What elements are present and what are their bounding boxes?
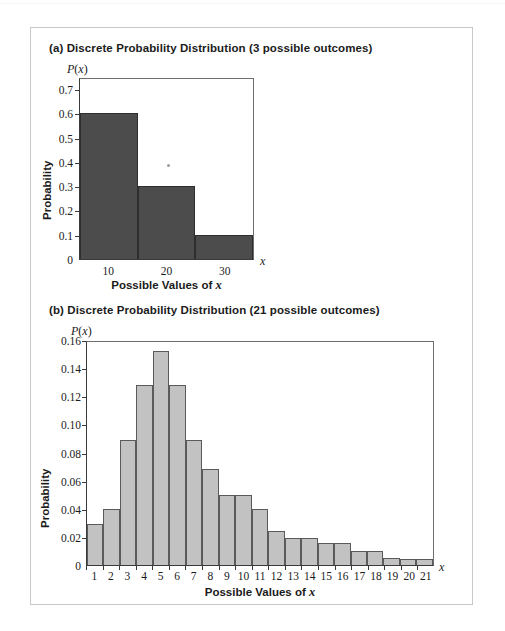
panel-b-y-tick-mark <box>82 397 86 398</box>
panel-b-x-tick-label: 9 <box>224 570 230 582</box>
panel-a-y-axis-symbol: P(x) <box>67 62 88 77</box>
panel-b-plot-area <box>86 341 434 566</box>
panel-a-y-tick-label: 0.3 <box>39 181 73 193</box>
panel-b-bar <box>186 440 202 565</box>
panel-b-y-tick-label: 0.06 <box>35 476 81 488</box>
panel-b-x-tick-label: 7 <box>191 570 197 582</box>
panel-a-x-tick-label: 10 <box>102 265 114 277</box>
panel-b-x-tick-label: 5 <box>158 570 164 582</box>
panel-b-x-tick-label: 18 <box>370 570 382 582</box>
panel-b-x-tick-mark <box>285 566 286 570</box>
panel-b-x-tick-label: 3 <box>125 570 131 582</box>
panel-b-bar <box>87 524 103 565</box>
panel-b-bar <box>235 495 251 565</box>
panel-b-bar <box>120 440 136 565</box>
panel-a-y-tick-mark <box>75 187 79 188</box>
panel-b-bar <box>268 531 284 565</box>
panel-a-x-tick-label: 20 <box>161 265 173 277</box>
scan-speck <box>167 164 170 167</box>
panel-b-x-tick-label: 4 <box>141 570 147 582</box>
panel-b-x-tick-mark <box>351 566 352 570</box>
panel-b-x-tick-label: 1 <box>91 570 97 582</box>
panel-b-y-tick-mark <box>82 510 86 511</box>
panel-a-y-tick-mark <box>75 114 79 115</box>
panel-b-x-tick-label: 6 <box>174 570 180 582</box>
panel-b-x-tick-label: 20 <box>403 570 415 582</box>
panel-b-x-tick-label: 21 <box>420 570 432 582</box>
panel-b-bar <box>202 469 218 565</box>
panel-b-x-tick-label: 10 <box>238 570 250 582</box>
panel-b-bar <box>285 538 301 565</box>
panel-a-y-tick-mark <box>75 90 79 91</box>
panel-b-x-tick-mark <box>401 566 402 570</box>
panel-b-bar <box>334 543 350 566</box>
panel-b-y-tick-label: 0 <box>35 560 81 572</box>
panel-b-x-tick-mark <box>185 566 186 570</box>
panel-b-x-axis-symbol: x <box>439 560 444 575</box>
panel-a-y-tick-label: 0.2 <box>39 205 73 217</box>
panel-b-x-tick-label: 8 <box>207 570 213 582</box>
panel-a-bar <box>138 186 196 259</box>
panel-b-bar <box>219 495 235 565</box>
panel-b-x-axis-label: Possible Values of x <box>86 585 434 600</box>
panel-b-x-tick-mark <box>202 566 203 570</box>
panel-b-bar <box>136 385 152 565</box>
panel-b-y-tick-mark <box>82 341 86 342</box>
panel-a-bar <box>80 113 138 259</box>
panel-b-y-tick-mark <box>82 425 86 426</box>
panel-b-x-axis-label-text: Possible Values of x <box>205 586 315 598</box>
panel-b-y-tick-mark <box>82 482 86 483</box>
panel-b-x-tick-label: 2 <box>108 570 114 582</box>
panel-b-y-tick-mark <box>82 538 86 539</box>
panel-b-x-tick-label: 11 <box>254 570 265 582</box>
panel-b-y-tick-label: 0.08 <box>35 448 81 460</box>
panel-b-y-tick-mark <box>82 454 86 455</box>
panel-b-bar <box>351 551 367 565</box>
panel-b-x-tick-mark <box>219 566 220 570</box>
panel-b-x-tick-label: 12 <box>271 570 283 582</box>
panel-b-bar <box>367 551 383 565</box>
panel-a-x-axis-label-text: Possible Values of x <box>111 279 221 291</box>
panel-b-y-tick-label: 0.10 <box>35 419 81 431</box>
panel-b-x-tick-mark <box>152 566 153 570</box>
figure-frame: (a) Discrete Probability Distribution (3… <box>30 27 473 605</box>
panel-b-bar <box>383 558 399 565</box>
panel-b-x-tick-mark <box>368 566 369 570</box>
panel-b-x-tick-mark <box>318 566 319 570</box>
panel-b-y-tick-label: 0.04 <box>35 504 81 516</box>
panel-a-y-tick-label: 0 <box>39 254 73 266</box>
panel-a-y-tick-label: 0.4 <box>39 157 73 169</box>
panel-b-bar <box>400 559 416 565</box>
panel-b-x-tick-label: 19 <box>387 570 399 582</box>
panel-b-y-tick-mark <box>82 369 86 370</box>
panel-b-x-tick-mark <box>252 566 253 570</box>
panel-b-x-tick-mark <box>169 566 170 570</box>
panel-b-bar <box>153 351 169 565</box>
panel-a-plot-area <box>79 78 254 260</box>
panel-b-bar <box>416 559 432 565</box>
panel-b-x-tick-mark <box>268 566 269 570</box>
panel-b-y-tick-label: 0.02 <box>35 532 81 544</box>
panel-a-y-tick-mark <box>75 163 79 164</box>
panel-b-x-tick-mark <box>335 566 336 570</box>
panel-a-y-tick-mark <box>75 236 79 237</box>
panel-a-title: (a) Discrete Probability Distribution (3… <box>49 42 372 54</box>
panel-a-y-tick-label: 0.1 <box>39 230 73 242</box>
panel-b-title: (b) Discrete Probability Distribution (2… <box>49 304 380 316</box>
panel-b-y-tick-label: 0.14 <box>35 363 81 375</box>
panel-b-x-tick-mark <box>103 566 104 570</box>
panel-b-bar <box>301 538 317 565</box>
panel-a-bars <box>80 79 253 259</box>
panel-a-bar <box>195 235 253 259</box>
panel-a-y-tick-mark <box>75 211 79 212</box>
panel-a-x-axis-symbol: x <box>260 254 265 269</box>
panel-b-x-tick-mark <box>384 566 385 570</box>
panel-b-x-tick-mark <box>119 566 120 570</box>
panel-b-bar <box>103 509 119 565</box>
panel-a-y-tick-label: 0.7 <box>39 84 73 96</box>
panel-b-bar <box>318 543 334 566</box>
panel-a-y-tick-mark <box>75 139 79 140</box>
panel-b-y-tick-label: 0.16 <box>35 335 81 347</box>
panel-a-x-tick-label: 30 <box>219 265 231 277</box>
panel-b-x-tick-label: 14 <box>304 570 316 582</box>
